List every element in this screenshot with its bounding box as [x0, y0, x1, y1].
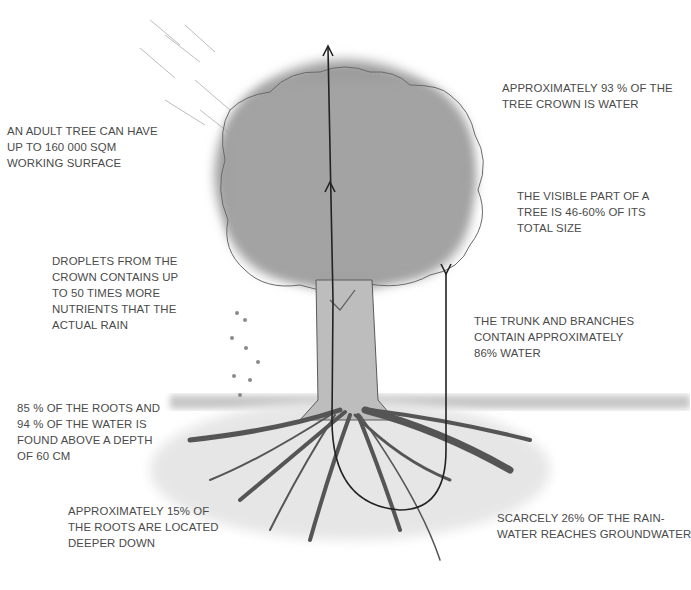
annotation-crown-water: APPROXIMATELY 93 % OF THE TREE CROWN IS … — [502, 80, 673, 112]
text-line: CROWN CONTAINS UP — [52, 269, 178, 285]
text-line: AN ADULT TREE CAN HAVE — [7, 123, 158, 139]
text-line: TREE IS 46-60% OF ITS — [517, 204, 650, 220]
tree-crown — [215, 60, 483, 290]
text-line: DEEPER DOWN — [68, 535, 219, 551]
text-line: SCARCELY 26% OF THE RAIN- — [497, 510, 691, 526]
text-line: ACTUAL RAIN — [52, 317, 178, 333]
text-line: TREE CROWN IS WATER — [502, 96, 673, 112]
text-line: APPROXIMATELY 15% OF — [68, 503, 219, 519]
text-line: FOUND ABOVE A DEPTH — [17, 432, 160, 448]
annotation-roots-depth: 85 % OF THE ROOTS AND 94 % OF THE WATER … — [17, 400, 160, 464]
annotation-trunk-water: THE TRUNK AND BRANCHES CONTAIN APPROXIMA… — [474, 313, 634, 361]
annotation-deep-roots: APPROXIMATELY 15% OF THE ROOTS ARE LOCAT… — [68, 503, 219, 551]
figure-caption — [0, 583, 690, 590]
text-line: TOTAL SIZE — [517, 220, 650, 236]
text-line: TO 50 TIMES MORE — [52, 285, 178, 301]
sun-rays — [140, 20, 232, 135]
text-line: THE TRUNK AND BRANCHES — [474, 313, 634, 329]
text-line: NUTRIENTS THAT THE — [52, 301, 178, 317]
text-line: APPROXIMATELY 93 % OF THE — [502, 80, 673, 96]
text-line: 85 % OF THE ROOTS AND — [17, 400, 160, 416]
text-line: 86% WATER — [474, 345, 634, 361]
text-line: WATER REACHES GROUNDWATER — [497, 526, 691, 542]
text-line: THE ROOTS ARE LOCATED — [68, 519, 219, 535]
annotation-visible-part: THE VISIBLE PART OF A TREE IS 46-60% OF … — [517, 188, 650, 236]
text-line: OF 60 CM — [17, 448, 160, 464]
annotation-groundwater: SCARCELY 26% OF THE RAIN- WATER REACHES … — [497, 510, 691, 542]
text-line: CONTAIN APPROXIMATELY — [474, 329, 634, 345]
text-line: UP TO 160 000 SQM — [7, 139, 158, 155]
annotation-working-surface: AN ADULT TREE CAN HAVE UP TO 160 000 SQM… — [7, 123, 158, 171]
annotation-droplets: DROPLETS FROM THE CROWN CONTAINS UP TO 5… — [52, 253, 178, 333]
text-line: THE VISIBLE PART OF A — [517, 188, 650, 204]
text-line: 94 % OF THE WATER IS — [17, 416, 160, 432]
text-line: DROPLETS FROM THE — [52, 253, 178, 269]
text-line: WORKING SURFACE — [7, 155, 158, 171]
droplets — [230, 311, 260, 397]
